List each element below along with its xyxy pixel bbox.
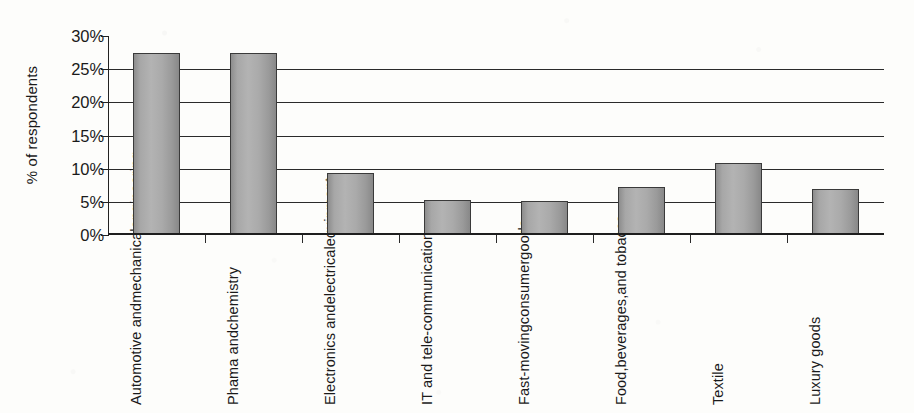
x-axis-category-label-line: Phama and — [224, 330, 243, 405]
y-axis-tick-labels: 0%5%10%15%20%25%30% — [40, 0, 104, 413]
x-axis-tick-mark — [690, 235, 691, 243]
x-axis-category-label-line: Luxury goods — [806, 317, 825, 405]
x-axis-category-label-line: Textile — [709, 363, 728, 405]
y-axis-tick-label: 20% — [71, 94, 104, 111]
y-axis-tick-mark — [101, 235, 109, 236]
y-axis-tick-mark — [101, 136, 109, 137]
plot-area — [108, 36, 884, 235]
y-axis-tick-mark — [101, 36, 109, 37]
x-axis-category-label-line: IT and tele- — [418, 331, 437, 405]
x-axis-tick-mark — [205, 235, 206, 243]
x-axis-category-label-line: Electronics and — [321, 304, 340, 405]
x-axis-category-label-line: Fast-moving — [515, 324, 534, 405]
x-axis-category-label-line: chemistry — [224, 267, 243, 330]
bar-chart: % of respondents 0%5%10%15%20%25%30% Aut… — [0, 0, 914, 413]
x-axis-category-label-line: Food, — [612, 367, 631, 405]
y-axis-tick-mark — [101, 202, 109, 203]
x-axis-tick-mark — [787, 235, 788, 243]
gridline — [108, 202, 884, 203]
bar — [618, 187, 665, 235]
y-axis-tick-mark — [101, 169, 109, 170]
x-axis-tick-mark — [302, 235, 303, 243]
x-axis-category-label-line: consumer — [515, 260, 534, 324]
bar — [715, 163, 762, 235]
gridline — [108, 102, 884, 103]
x-axis-category-labels: Automotive andmechanicalengineeringPhama… — [108, 243, 884, 413]
y-axis-tick-label: 15% — [71, 127, 104, 144]
x-axis-category-label-line: electrical — [321, 246, 340, 304]
bar — [812, 189, 859, 235]
y-axis-tick-label: 25% — [71, 61, 104, 78]
bar — [327, 173, 374, 235]
bar — [230, 53, 277, 235]
x-axis-tick-mark — [399, 235, 400, 243]
x-axis-category-label: Textile — [709, 243, 751, 411]
y-axis-tick-mark — [101, 102, 109, 103]
bar — [521, 201, 568, 235]
y-axis-tick-label: 10% — [71, 160, 104, 177]
bar — [424, 200, 471, 235]
x-axis-category-label: Luxury goods — [806, 243, 894, 411]
gridline — [108, 169, 884, 170]
x-axis-tick-mark — [496, 235, 497, 243]
x-axis-tick-mark — [593, 235, 594, 243]
x-axis-category-label-line: communication — [418, 232, 437, 331]
bar — [133, 53, 180, 235]
y-axis-tick-label: 30% — [71, 28, 104, 45]
x-axis-category-label-line: beverages, — [612, 295, 631, 368]
y-axis-tick-mark — [101, 69, 109, 70]
gridline — [108, 69, 884, 70]
x-axis-category-label-line: Automotive and — [127, 303, 146, 405]
gridline — [108, 136, 884, 137]
x-axis-category-label-line: mechanical — [127, 228, 146, 302]
x-axis-category-label: Food,beverages,and tobacco — [612, 243, 802, 411]
